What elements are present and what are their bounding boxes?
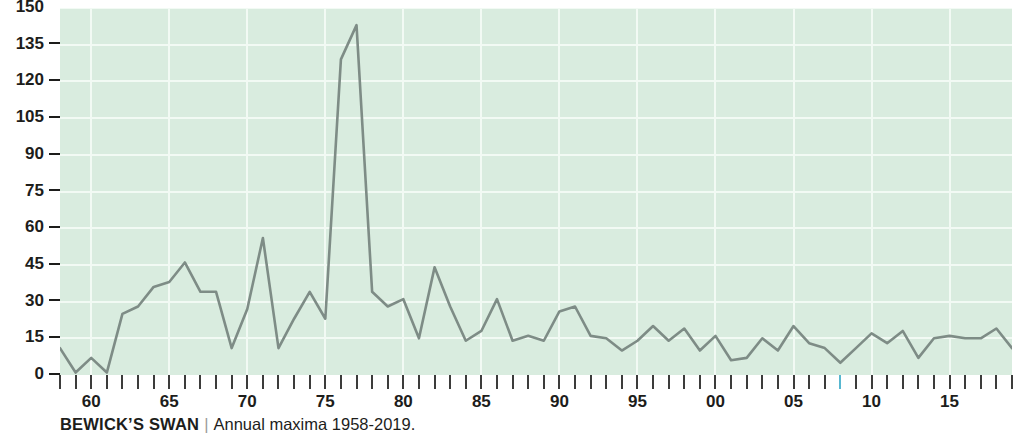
x-axis-tick xyxy=(496,375,498,389)
y-axis-tick-label: 150 xyxy=(16,0,44,16)
x-axis-tick xyxy=(465,375,467,389)
x-axis-tick xyxy=(215,375,217,389)
x-axis-tick xyxy=(340,375,342,389)
x-axis-tick xyxy=(636,375,638,389)
x-axis-tick-label: 95 xyxy=(628,392,647,412)
x-axis-tick xyxy=(839,375,841,389)
y-axis-tick-label: 60 xyxy=(25,217,44,236)
x-axis-tick xyxy=(917,375,919,389)
x-axis-tick-label: 90 xyxy=(550,392,569,412)
x-axis-tick xyxy=(761,375,763,389)
x-axis-tick xyxy=(699,375,701,389)
x-axis-tick xyxy=(683,375,685,389)
x-axis-tick xyxy=(121,375,123,389)
x-axis-tick xyxy=(434,375,436,389)
y-axis-tick-label: 105 xyxy=(16,107,44,126)
x-axis-tick xyxy=(512,375,514,389)
x-axis-tick-label: 75 xyxy=(316,392,335,412)
data-series-line xyxy=(60,8,1012,375)
y-axis-tick-75: 75 xyxy=(25,183,60,199)
x-axis-tick xyxy=(449,375,451,389)
y-axis-tick-mark xyxy=(49,116,60,118)
x-axis-tick xyxy=(668,375,670,389)
x-axis-tick xyxy=(418,375,420,389)
y-axis-tick-135: 135 xyxy=(16,36,60,52)
x-axis-tick-label: 00 xyxy=(706,392,725,412)
y-axis-tick-label: 120 xyxy=(16,70,44,89)
x-axis-tick-label: 60 xyxy=(82,392,101,412)
x-axis-tick xyxy=(262,375,264,389)
x-axis-tick xyxy=(746,375,748,389)
y-axis-tick-60: 60 xyxy=(25,219,60,235)
y-axis-tick-label: 45 xyxy=(25,254,44,273)
x-axis-tick xyxy=(886,375,888,389)
x-axis-tick-label: 10 xyxy=(862,392,881,412)
x-axis-tick xyxy=(387,375,389,389)
chart-figure: 0153045607590105120135150 60657075808590… xyxy=(0,0,1025,438)
x-axis-tick-label: 05 xyxy=(784,392,803,412)
x-axis-tick xyxy=(949,375,951,389)
y-axis-tick-label: 30 xyxy=(25,291,44,310)
caption-separator: | xyxy=(204,415,208,433)
x-axis-tick xyxy=(59,375,61,389)
y-axis-tick-mark xyxy=(49,336,60,338)
x-axis-tick xyxy=(964,375,966,389)
x-axis-tick xyxy=(356,375,358,389)
x-axis-tick-label: 15 xyxy=(940,392,959,412)
x-axis-tick xyxy=(995,375,997,389)
x-axis-tick xyxy=(75,375,77,389)
y-axis-tick-label: 75 xyxy=(25,181,44,200)
x-axis-tick xyxy=(605,375,607,389)
x-axis-tick xyxy=(777,375,779,389)
x-axis-tick xyxy=(168,375,170,389)
x-axis-tick-label: 85 xyxy=(472,392,491,412)
y-axis-tick-mark xyxy=(49,226,60,228)
x-axis-tick xyxy=(137,375,139,389)
x-axis-tick xyxy=(402,375,404,389)
x-axis-tick xyxy=(293,375,295,389)
x-axis-tick xyxy=(855,375,857,389)
y-axis-tick-120: 120 xyxy=(16,72,60,88)
y-axis-tick-mark xyxy=(49,6,60,8)
caption-subtitle: Annual maxima 1958-2019. xyxy=(213,415,415,433)
x-axis-tick xyxy=(309,375,311,389)
y-axis-tick-mark xyxy=(49,42,60,44)
y-axis-tick-150: 150 xyxy=(16,0,60,15)
x-axis-tick-label: 80 xyxy=(394,392,413,412)
x-axis-tick xyxy=(652,375,654,389)
x-axis-tick xyxy=(980,375,982,389)
x-axis-tick xyxy=(621,375,623,389)
y-axis-tick-mark xyxy=(49,153,60,155)
y-axis-tick-15: 15 xyxy=(25,329,60,345)
y-axis-tick-mark xyxy=(49,79,60,81)
x-axis-tick xyxy=(824,375,826,389)
chart-caption: BEWICK’S SWAN|Annual maxima 1958-2019. xyxy=(60,415,415,434)
x-axis-tick xyxy=(730,375,732,389)
x-axis-tick xyxy=(371,375,373,389)
y-axis-tick-label: 15 xyxy=(25,327,44,346)
x-axis-tick-label: 70 xyxy=(238,392,257,412)
x-axis-tick xyxy=(277,375,279,389)
x-axis-tick xyxy=(808,375,810,389)
y-axis-tick-0: 0 xyxy=(35,366,60,382)
plot-area xyxy=(60,8,1012,375)
x-axis-tick xyxy=(871,375,873,389)
y-axis-tick-label: 90 xyxy=(25,144,44,163)
x-axis-tick xyxy=(246,375,248,389)
y-axis: 0153045607590105120135150 xyxy=(0,0,60,385)
x-axis-tick xyxy=(231,375,233,389)
x-axis-tick xyxy=(933,375,935,389)
y-axis-tick-30: 30 xyxy=(25,293,60,309)
x-axis-tick xyxy=(902,375,904,389)
x-axis-tick xyxy=(1011,375,1013,389)
caption-species: BEWICK’S SWAN xyxy=(60,415,199,433)
x-axis-tick-label: 65 xyxy=(160,392,179,412)
y-axis-tick-45: 45 xyxy=(25,256,60,272)
x-axis-tick xyxy=(527,375,529,389)
y-axis-tick-90: 90 xyxy=(25,146,60,162)
x-axis-tick xyxy=(574,375,576,389)
x-axis-tick xyxy=(590,375,592,389)
x-axis-tick xyxy=(543,375,545,389)
y-axis-tick-105: 105 xyxy=(16,109,60,125)
x-axis-tick xyxy=(90,375,92,389)
